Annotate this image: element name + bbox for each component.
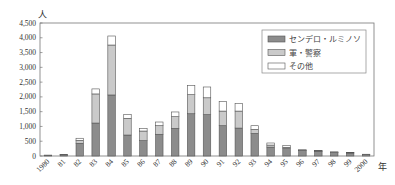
bar-segment [299, 150, 307, 156]
bar-segment [140, 141, 148, 156]
x-tick-label: 91 [215, 157, 227, 169]
bar-stack-89 [187, 85, 195, 156]
bar-segment [156, 126, 164, 135]
bar-segment [219, 102, 227, 111]
x-tick-label: 94 [262, 157, 274, 169]
bar-segment [219, 126, 227, 156]
x-axis: 1980818283848586878889909192939495969798… [34, 157, 369, 174]
bar-segment [251, 129, 259, 133]
bar-segment [108, 95, 116, 156]
bar-segment [124, 118, 132, 135]
bar-segment [76, 143, 84, 156]
y-tick-label: 1,000 [19, 122, 36, 131]
bar-segment [156, 122, 164, 126]
bar-segment [171, 117, 179, 129]
x-tick-label: 88 [167, 157, 179, 169]
x-tick-label: 95 [278, 157, 290, 169]
bar-segment [267, 147, 275, 156]
y-axis-unit-label: 人 [38, 10, 47, 20]
bar-segment [283, 146, 291, 148]
x-tick-label: 89 [183, 157, 195, 169]
bar-segment [124, 135, 132, 156]
x-tick-label: 96 [294, 157, 306, 169]
x-tick-label: 85 [119, 157, 131, 169]
bar-segment [251, 126, 259, 130]
y-tick-label: 0 [32, 152, 36, 161]
bar-segment [76, 140, 84, 143]
bar-segment [187, 114, 195, 156]
bar-segment [251, 133, 259, 156]
bar-segment [235, 103, 243, 111]
bar-segment [108, 45, 116, 95]
y-tick-label: 2,500 [19, 78, 36, 87]
legend: センデロ・ルミノソ軍・警察その他 [262, 30, 366, 73]
bar-stack-86 [140, 128, 148, 156]
bar-stack-94 [267, 143, 275, 156]
bar-stack-85 [124, 114, 132, 156]
bar-segment [267, 143, 275, 145]
x-tick-label: 2000 [352, 157, 369, 174]
bar-segment [171, 128, 179, 156]
bar-stack-96 [299, 150, 307, 156]
bar-segment [187, 95, 195, 114]
y-axis: 05001,0001,5002,0002,5003,0003,5004,0004… [19, 19, 42, 161]
x-tick-label: 81 [56, 157, 68, 169]
y-tick-label: 2,000 [19, 92, 36, 101]
bar-segment [76, 138, 84, 140]
bar-segment [124, 114, 132, 118]
bar-stack-99 [346, 152, 354, 156]
bar-segment [187, 85, 195, 94]
bar-stack-83 [92, 89, 100, 156]
legend-swatch [268, 36, 285, 42]
bar-segment [283, 149, 291, 156]
bar-segment [108, 36, 116, 45]
bar-segment [156, 134, 164, 156]
bar-segment [92, 89, 100, 94]
x-tick-label: 93 [246, 157, 258, 169]
bar-segment [203, 115, 211, 156]
x-tick-label: 97 [310, 157, 322, 169]
bar-segment [346, 153, 354, 156]
bar-segment [140, 128, 148, 131]
x-tick-label: 98 [326, 157, 338, 169]
bar-stack-95 [283, 146, 291, 156]
bar-segment [235, 128, 243, 156]
bar-stack-93 [251, 126, 259, 156]
x-tick-label: 1980 [34, 157, 51, 174]
legend-label: 軍・警察 [289, 48, 321, 58]
x-axis-unit-label: 年 [378, 161, 387, 172]
bar-segment [92, 123, 100, 156]
bar-stack-90 [203, 87, 211, 156]
bar-stack-82 [76, 138, 84, 156]
bar-stack-92 [235, 103, 243, 156]
x-tick-label: 83 [87, 157, 99, 169]
bar-segment [219, 111, 227, 126]
legend-label: その他 [289, 61, 313, 71]
bar-stack-91 [219, 102, 227, 156]
x-tick-label: 86 [135, 157, 147, 169]
legend-label: センデロ・ルミノソ [289, 34, 361, 44]
bar-segment [203, 87, 211, 98]
bar-segment [171, 112, 179, 117]
bar-stack-1980 [44, 155, 52, 156]
y-tick-label: 3,500 [19, 48, 36, 57]
x-tick-label: 87 [151, 157, 163, 169]
x-tick-label: 82 [72, 157, 84, 169]
y-tick-label: 500 [25, 137, 37, 146]
x-tick-label: 92 [231, 157, 243, 169]
x-tick-label: 90 [199, 157, 211, 169]
bar-stack-81 [60, 155, 68, 156]
bar-segment [203, 98, 211, 115]
x-tick-label: 84 [103, 157, 115, 169]
stacked-bar-chart: 05001,0001,5002,0002,5003,0003,5004,0004… [0, 0, 395, 185]
bar-segment [330, 152, 338, 156]
legend-swatch [268, 50, 285, 56]
y-tick-label: 4,500 [19, 19, 36, 28]
bar-segment [315, 151, 323, 156]
bar-segment [140, 131, 148, 141]
bar-stack-2000 [362, 154, 370, 156]
bar-stack-84 [108, 36, 116, 156]
y-tick-label: 3,000 [19, 63, 36, 72]
legend-swatch [268, 63, 285, 69]
y-tick-label: 4,000 [19, 33, 36, 42]
